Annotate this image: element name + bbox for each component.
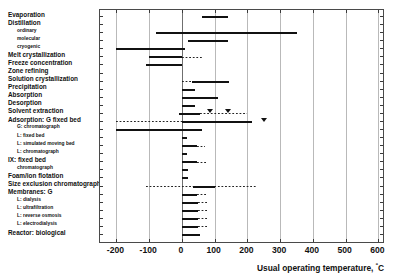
- x-tick--100: [149, 10, 150, 13]
- range-bar: [116, 48, 185, 50]
- gridline-400: [313, 10, 314, 242]
- x-tick-600: [378, 10, 379, 13]
- y-tick: [380, 97, 383, 98]
- range-bar: [182, 169, 189, 171]
- y-tick: [380, 105, 383, 106]
- y-tick: [100, 24, 103, 25]
- range-extension-dotted: [197, 194, 207, 195]
- y-tick: [100, 89, 103, 90]
- y-tick: [380, 194, 383, 195]
- range-bar: [149, 56, 182, 58]
- x-tick-label: 400: [305, 245, 319, 255]
- y-tick: [380, 210, 383, 211]
- y-tick: [380, 161, 383, 162]
- y-tick: [380, 48, 383, 49]
- x-axis-tick-labels: -200-1000100200300400500600: [99, 245, 384, 257]
- gridline-100: [215, 10, 216, 242]
- category-label: Freeze concentration: [0, 60, 105, 66]
- y-tick: [100, 64, 103, 65]
- x-tick-label: 300: [272, 245, 286, 255]
- chart-figure: EvaporationDistillationordinarymolecular…: [0, 0, 394, 280]
- range-bar: [182, 234, 200, 236]
- y-tick: [380, 64, 383, 65]
- y-tick: [100, 32, 103, 33]
- category-label: molecular: [0, 37, 114, 42]
- range-bar: [182, 210, 198, 212]
- x-tick-300: [280, 10, 281, 13]
- range-bar: [182, 145, 197, 147]
- category-label: ordinary: [0, 29, 114, 34]
- range-bar: [179, 113, 200, 115]
- y-tick: [100, 56, 103, 57]
- category-label: L: chromatograph: [0, 150, 114, 155]
- category-label: Solution crystallization: [0, 76, 105, 82]
- y-tick: [100, 161, 103, 162]
- category-label-column: EvaporationDistillationordinarymolecular…: [0, 0, 99, 243]
- x-tick-label: 600: [370, 245, 384, 255]
- range-bar: [182, 153, 187, 155]
- category-label: L: dialysis: [0, 198, 114, 203]
- y-tick: [100, 137, 103, 138]
- y-tick: [380, 73, 383, 74]
- range-extension-dotted: [197, 146, 205, 147]
- gridline-200: [247, 10, 248, 242]
- gridline-300: [280, 10, 281, 242]
- plot-area: [99, 9, 384, 243]
- y-tick: [100, 234, 103, 235]
- x-tick-400: [313, 239, 314, 242]
- range-bar: [182, 226, 198, 228]
- y-tick: [100, 153, 103, 154]
- category-label: Desorption: [0, 100, 105, 106]
- y-tick: [100, 177, 103, 178]
- category-label: Size exclusion chromatography: [0, 181, 105, 187]
- point-marker-triangle: [225, 109, 231, 113]
- range-extension-dotted: [197, 162, 207, 163]
- x-tick-label: 100: [206, 245, 220, 255]
- x-tick-label: 200: [239, 245, 253, 255]
- range-extension-dotted: [116, 121, 182, 122]
- gridline-0: [182, 10, 183, 242]
- range-bar: [116, 129, 201, 131]
- category-label: Foam/ion flotation: [0, 173, 105, 179]
- range-extension-dotted: [198, 226, 207, 227]
- category-label: G: chromatograph: [0, 125, 114, 130]
- x-tick-500: [346, 239, 347, 242]
- y-tick: [380, 234, 383, 235]
- x-tick-400: [313, 10, 314, 13]
- range-bar: [182, 161, 197, 163]
- y-tick: [100, 202, 103, 203]
- x-tick--200: [116, 239, 117, 242]
- gridline-600: [378, 10, 379, 242]
- y-tick: [380, 226, 383, 227]
- category-label: L: fixed bed: [0, 134, 114, 139]
- range-extension-dotted: [198, 202, 207, 203]
- category-label: Adsorption: G fixed bed: [0, 117, 105, 123]
- range-extension-dotted: [198, 218, 207, 219]
- x-axis-title: Usual operating temperature, ºC: [0, 262, 384, 273]
- range-bar: [182, 121, 252, 123]
- x-tick-label: 0: [179, 245, 184, 255]
- y-tick: [100, 40, 103, 41]
- category-label: Solvent extraction: [0, 108, 105, 114]
- y-tick: [380, 121, 383, 122]
- range-bar: [182, 202, 198, 204]
- point-marker-triangle: [261, 118, 267, 122]
- range-extension-dotted: [182, 81, 192, 82]
- category-label: L: electrodialysis: [0, 222, 114, 227]
- x-tick-200: [247, 10, 248, 13]
- category-label: Absorption: [0, 92, 105, 98]
- range-extension-dotted: [198, 210, 207, 211]
- y-tick: [380, 145, 383, 146]
- range-bar: [182, 218, 198, 220]
- y-tick: [380, 24, 383, 25]
- range-bar: [156, 32, 297, 34]
- x-tick--200: [116, 10, 117, 13]
- range-bar: [182, 137, 187, 139]
- y-tick: [100, 210, 103, 211]
- range-bar: [192, 81, 230, 83]
- category-label: Precipitation: [0, 84, 105, 90]
- y-tick: [380, 186, 383, 187]
- gridline--200: [116, 10, 117, 242]
- y-tick: [100, 81, 103, 82]
- x-tick-500: [346, 10, 347, 13]
